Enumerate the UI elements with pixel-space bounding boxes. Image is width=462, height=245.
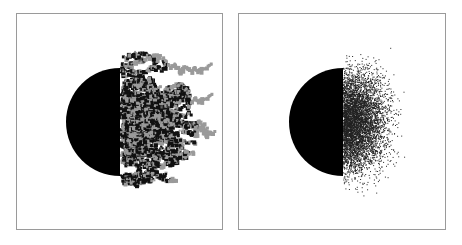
figure-canvas [0, 0, 462, 245]
particle-scatter [343, 48, 405, 197]
right-half-disk [289, 68, 343, 176]
fractal-cluster [120, 51, 216, 188]
left-half-disk [66, 68, 120, 176]
